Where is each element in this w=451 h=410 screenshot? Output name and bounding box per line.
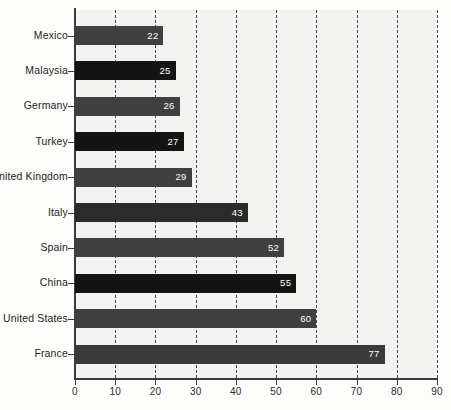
- bar: [75, 309, 316, 328]
- bar: [75, 238, 284, 257]
- bar-value-label: 27: [167, 137, 178, 147]
- x-tick-mark: [276, 380, 277, 385]
- x-tick-label: 40: [230, 386, 242, 397]
- category-label: Mexico: [34, 29, 68, 41]
- gridline: [357, 10, 358, 378]
- bar-row: 27: [75, 132, 184, 151]
- x-tick-mark: [357, 380, 358, 385]
- category-tick-mark: [68, 106, 74, 107]
- bar-row: 29: [75, 168, 192, 187]
- x-tick-label: 70: [351, 386, 363, 397]
- bar-chart: 0102030405060708090 22252627294352556077…: [0, 0, 451, 410]
- bar: [75, 203, 248, 222]
- bar-row: 43: [75, 203, 248, 222]
- x-tick-mark: [75, 380, 76, 385]
- x-tick-label: 90: [431, 386, 443, 397]
- x-tick-label: 0: [72, 386, 78, 397]
- x-tick-mark: [397, 380, 398, 385]
- gridline: [316, 10, 317, 378]
- x-tick-label: 60: [311, 386, 323, 397]
- x-tick-mark: [115, 380, 116, 385]
- bar: [75, 345, 385, 364]
- category-tick-mark: [68, 213, 74, 214]
- bar-row: 60: [75, 309, 316, 328]
- bar-row: 26: [75, 97, 180, 116]
- bar-value-label: 77: [369, 349, 380, 359]
- category-label: Spain: [40, 241, 68, 253]
- x-tick-label: 80: [391, 386, 403, 397]
- x-tick-mark: [437, 380, 438, 385]
- x-tick-label: 50: [270, 386, 282, 397]
- x-tick-mark: [236, 380, 237, 385]
- bar-row: 25: [75, 61, 176, 80]
- category-label: France: [34, 347, 68, 359]
- gridline: [437, 10, 438, 378]
- category-tick-mark: [68, 354, 74, 355]
- category-label: Germany: [24, 99, 68, 111]
- x-tick-label: 30: [190, 386, 202, 397]
- x-tick-label: 10: [109, 386, 121, 397]
- gridline: [397, 10, 398, 378]
- bar-row: 22: [75, 26, 163, 45]
- bar: [75, 168, 192, 187]
- category-label: Turkey: [35, 135, 68, 147]
- category-tick-mark: [68, 71, 74, 72]
- x-tick-label: 20: [150, 386, 162, 397]
- bar-value-label: 22: [147, 31, 158, 41]
- bar-row: 77: [75, 345, 385, 364]
- category-label: Malaysia: [25, 64, 68, 76]
- category-tick-mark: [68, 177, 74, 178]
- x-axis-line: [74, 378, 438, 380]
- x-tick-mark: [196, 380, 197, 385]
- bar-value-label: 60: [300, 314, 311, 324]
- category-tick-mark: [68, 248, 74, 249]
- bar-value-label: 29: [175, 172, 186, 182]
- bar-row: 55: [75, 274, 296, 293]
- category-tick-mark: [68, 142, 74, 143]
- bar-row: 52: [75, 238, 284, 257]
- category-label: Italy: [48, 206, 68, 218]
- category-label: United Kingdom: [0, 170, 68, 182]
- bar-value-label: 25: [159, 66, 170, 76]
- category-label: China: [40, 276, 68, 288]
- x-tick-mark: [316, 380, 317, 385]
- category-tick-mark: [68, 36, 74, 37]
- category-label: United States: [3, 312, 68, 324]
- bar-value-label: 55: [280, 279, 291, 289]
- bar-value-label: 52: [268, 243, 279, 253]
- category-tick-mark: [68, 283, 74, 284]
- bar-value-label: 43: [232, 208, 243, 218]
- category-tick-mark: [68, 319, 74, 320]
- x-tick-mark: [155, 380, 156, 385]
- bar: [75, 274, 296, 293]
- bar-value-label: 26: [163, 102, 174, 112]
